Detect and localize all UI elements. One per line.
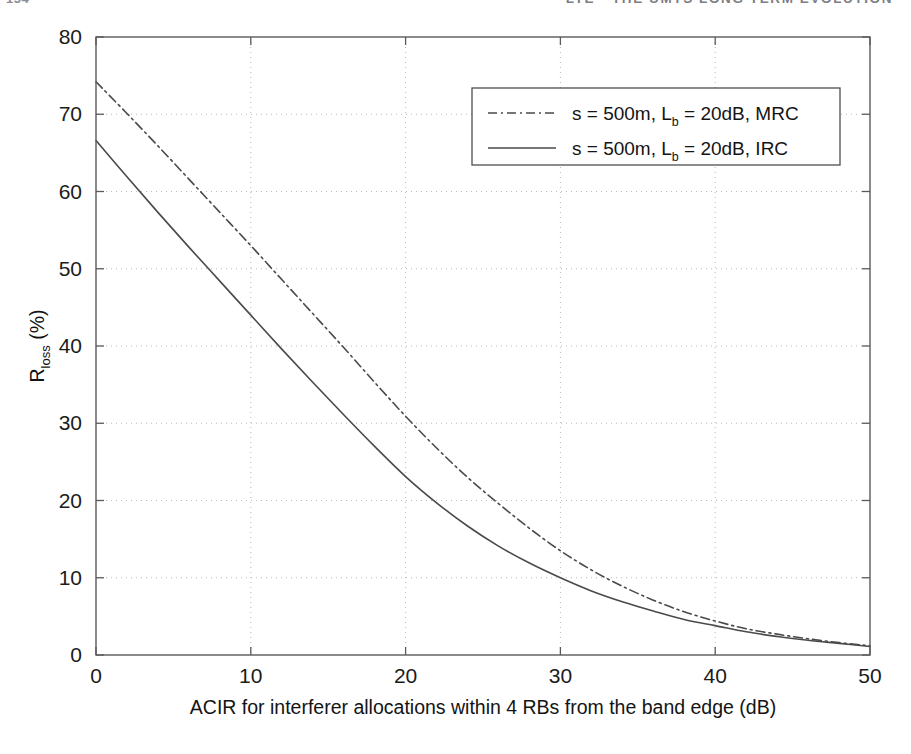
y-tick-label: 60: [59, 180, 82, 203]
y-tick-label: 0: [70, 643, 82, 666]
x-tick-label: 0: [90, 664, 102, 687]
x-tick-label: 50: [858, 664, 881, 687]
y-tick-label: 10: [59, 566, 82, 589]
y-tick-label: 30: [59, 411, 82, 434]
x-tick-label: 10: [239, 664, 262, 687]
svg-text:Rloss (%): Rloss (%): [26, 310, 53, 383]
x-tick-label: 30: [549, 664, 572, 687]
y-tick-label: 50: [59, 257, 82, 280]
line-chart: 01020304050 01020304050607080 ACIR for i…: [0, 0, 911, 754]
y-tick-label: 70: [59, 102, 82, 125]
x-tick-label: 40: [704, 664, 727, 687]
y-axis-title-main: R: [26, 368, 48, 382]
y-tick-label: 40: [59, 334, 82, 357]
y-axis-title-subscript: loss: [38, 345, 53, 369]
x-axis-title: ACIR for interferer allocations within 4…: [190, 696, 776, 718]
y-axis-title-unit: (%): [26, 310, 48, 346]
y-tick-labels: 01020304050607080: [59, 25, 82, 666]
chart-legend[interactable]: s = 500m, Lb = 20dB, MRC s = 500m, Lb = …: [472, 88, 840, 165]
chart-figure: 01020304050 01020304050607080 ACIR for i…: [0, 0, 911, 754]
x-tick-labels: 01020304050: [90, 664, 882, 687]
y-axis-title: Rloss (%): [26, 310, 53, 383]
x-tick-label: 20: [394, 664, 417, 687]
y-tick-label: 20: [59, 489, 82, 512]
y-tick-label: 80: [59, 25, 82, 48]
